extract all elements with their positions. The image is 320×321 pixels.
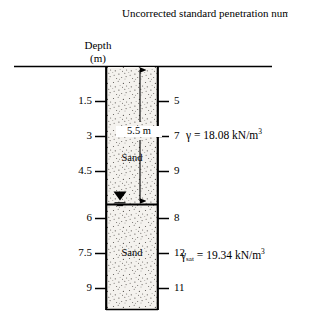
unit-weight-value: 19.34 — [206, 249, 232, 261]
soil-layer-label-upper: Sand — [108, 153, 156, 164]
spt-value-label: 8 — [174, 212, 198, 223]
unit-weight-value: 18.08 — [203, 129, 229, 141]
soil-column-fill — [106, 67, 158, 310]
spt-column-header: Uncorrected standard penetration number — [122, 8, 218, 19]
unit-exponent: 3 — [258, 127, 262, 136]
depth-label: 7.5 — [62, 247, 92, 258]
depth-label: 9 — [62, 282, 92, 293]
soil-layer-label-lower: Sand — [108, 248, 156, 259]
depth-label: 1.5 — [62, 95, 92, 106]
depth-column-header: Depth — [72, 40, 124, 51]
gamma-subscript: sat — [186, 255, 194, 263]
equals-sign: = — [197, 249, 204, 261]
unit-weight-unit: kN/m — [235, 249, 261, 261]
unit-weight-saturated-annotation: γsat = 19.34 kN/m3 — [181, 248, 265, 263]
unit-weight-dry-annotation: γ = 18.08 kN/m3 — [186, 128, 262, 143]
unit-weight-unit: kN/m — [232, 129, 258, 141]
depth-label: 4.5 — [62, 165, 92, 176]
depth-column-unit: (m) — [72, 53, 124, 64]
unit-exponent: 3 — [261, 247, 265, 256]
equals-sign: = — [194, 129, 201, 141]
spt-value-label: 9 — [174, 165, 198, 176]
gamma-symbol: γ — [186, 129, 191, 141]
spt-value-label: 11 — [174, 282, 198, 293]
depth-dimension-label: 5.5 m — [116, 126, 162, 137]
spt-value-label: 5 — [174, 95, 198, 106]
depth-label: 3 — [62, 130, 92, 141]
depth-tick-marks — [95, 102, 106, 289]
depth-label: 6 — [62, 212, 92, 223]
